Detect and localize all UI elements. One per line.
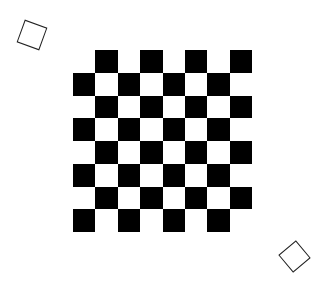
board-cell-light: [118, 96, 140, 118]
board-cell-dark: [95, 141, 118, 164]
board-cell-dark: [207, 118, 230, 141]
board-cell-dark: [163, 164, 185, 187]
board-cell-dark: [207, 73, 230, 96]
board-cell-light: [95, 164, 118, 187]
board-cell-light: [140, 209, 163, 232]
board-cell-light: [207, 96, 230, 118]
board-cell-dark: [230, 50, 252, 73]
board-cell-light: [95, 118, 118, 141]
board-cell-light: [140, 118, 163, 141]
loose-tile-bottom-right: [278, 240, 310, 272]
board-cell-dark: [163, 209, 185, 232]
board-cell-light: [140, 164, 163, 187]
board-cell-dark: [230, 96, 252, 118]
board-cell-dark: [140, 141, 163, 164]
board-cell-dark: [207, 164, 230, 187]
board-cell-light: [185, 73, 207, 96]
board-cell-light: [163, 96, 185, 118]
board-cell-light: [118, 50, 140, 73]
board-cell-light: [185, 209, 207, 232]
board-cell-light: [163, 50, 185, 73]
board-cell-light: [207, 50, 230, 73]
board-cell-light: [230, 73, 252, 96]
board-cell-dark: [163, 118, 185, 141]
board-cell-light: [207, 187, 230, 209]
board-cell-dark: [118, 73, 140, 96]
board-cell-dark: [95, 50, 118, 73]
board-cell-dark: [73, 118, 95, 141]
board-cell-light: [230, 164, 252, 187]
board-cell-dark: [73, 73, 95, 96]
board-cell-light: [230, 118, 252, 141]
board-cell-dark: [185, 96, 207, 118]
board-cell-dark: [185, 187, 207, 209]
loose-tile-top-left: [17, 20, 48, 51]
board-cell-light: [95, 73, 118, 96]
board-cell-dark: [185, 141, 207, 164]
board-cell-dark: [118, 164, 140, 187]
board-cell-dark: [207, 209, 230, 232]
board-cell-light: [95, 209, 118, 232]
board-cell-dark: [73, 164, 95, 187]
board-cell-light: [73, 187, 95, 209]
board-cell-light: [118, 141, 140, 164]
board-cell-dark: [140, 96, 163, 118]
board-cell-dark: [230, 187, 252, 209]
board-cell-light: [185, 164, 207, 187]
board-cell-dark: [230, 141, 252, 164]
board-cell-light: [185, 118, 207, 141]
board-cell-dark: [118, 118, 140, 141]
board-cell-dark: [185, 50, 207, 73]
board-cell-light: [140, 73, 163, 96]
board-cell-dark: [73, 209, 95, 232]
board-cell-light: [163, 187, 185, 209]
board-cell-dark: [140, 50, 163, 73]
board-cell-light: [118, 187, 140, 209]
board-cell-light: [163, 141, 185, 164]
board-cell-light: [73, 96, 95, 118]
board-cell-light: [73, 141, 95, 164]
board-cell-dark: [163, 73, 185, 96]
board-cell-dark: [95, 96, 118, 118]
board-cell-dark: [140, 187, 163, 209]
board-cell-dark: [118, 209, 140, 232]
board-cell-dark: [95, 187, 118, 209]
board-cell-light: [207, 141, 230, 164]
